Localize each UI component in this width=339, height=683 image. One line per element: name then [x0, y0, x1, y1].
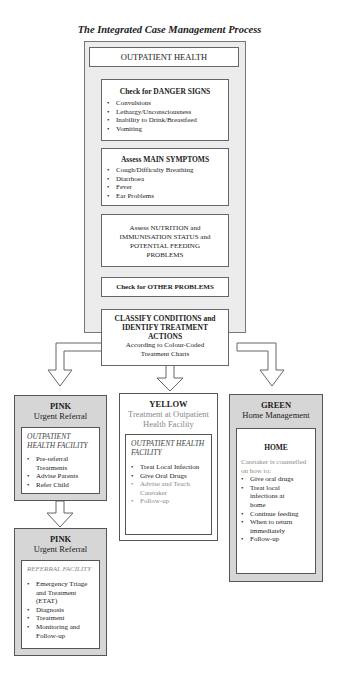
list-item: Treat Local Infection — [140, 463, 211, 472]
nutrition-box: Assess NUTRITION and IMMUNISATION STATUS… — [101, 214, 229, 267]
yellow-treatment-box: YELLOW Treatment at Outpatient Health Fa… — [119, 393, 218, 541]
list-item: Treat local infections at home — [250, 484, 315, 510]
list-item: Monitoring and Follow-up — [36, 623, 99, 640]
list-item: Give Oral Drugs — [140, 472, 211, 481]
pink-referral-category-name: PINK — [15, 534, 106, 544]
danger-signs-box: Check for DANGER SIGNS Convulsions Letha… — [101, 79, 229, 141]
classify-subtext: According to Colour-Coded Treatment Char… — [120, 341, 210, 358]
green-actions-list: Give oral drugs Treat local infections a… — [237, 475, 315, 544]
list-item: Inability to Drink/Breastfeed — [116, 116, 228, 125]
list-item: Follow-up — [140, 497, 211, 506]
list-item: Convulsions — [116, 99, 228, 108]
list-item: Continue feeding — [250, 510, 315, 519]
main-symptoms-heading: Assess MAIN SYMPTOMS — [102, 155, 228, 164]
pink-facility-name: OUTPATIENT HEALTH FACILITY — [27, 432, 99, 450]
yellow-facility-name: OUTPATIENT HEALTH FACILITY — [131, 439, 211, 457]
yellow-actions-list: Treat Local Infection Give Oral Drugs Ad… — [126, 463, 211, 506]
yellow-category-name: YELLOW — [120, 399, 217, 409]
list-item: Refer Child — [36, 481, 99, 490]
list-item: Diarrhoea — [116, 175, 228, 184]
list-item: Follow-up — [250, 535, 315, 544]
green-category-label: Home Management — [230, 410, 322, 420]
list-item: Vomiting — [116, 125, 228, 134]
classify-heading: CLASSIFY CONDITIONS and IDENTIFY TREATME… — [110, 314, 220, 341]
nutrition-text: Assess NUTRITION and IMMUNISATION STATUS… — [112, 224, 218, 260]
main-symptoms-list: Cough/Difficulty Breathing Diarrhoea Fev… — [102, 166, 228, 200]
list-item: Diagnosis — [36, 606, 99, 615]
list-item: Give oral drugs — [250, 475, 315, 484]
referral-facility-name: REFERRAL FACILITY — [27, 565, 99, 573]
pink-category-label: Urgent Referral — [15, 411, 106, 421]
list-item: Cough/Difficulty Breathing — [116, 166, 228, 175]
list-item: When to return immediately — [250, 518, 315, 535]
list-item: Advise Parents — [36, 472, 99, 481]
pink-urgent-referral-box: PINK Urgent Referral OUTPATIENT HEALTH F… — [14, 395, 107, 501]
pink-category-name: PINK — [15, 401, 106, 411]
other-problems-box: Check for OTHER PROBLEMS — [101, 277, 229, 297]
pink-facility-box: OUTPATIENT HEALTH FACILITY Pre-referral … — [21, 427, 100, 494]
main-symptoms-box: Assess MAIN SYMPTOMS Cough/Difficulty Br… — [101, 148, 229, 206]
list-item: Emergency Triage and Treatment (ETAT) — [36, 580, 99, 606]
green-facility-name: HOME — [237, 443, 315, 452]
classify-box: CLASSIFY CONDITIONS and IDENTIFY TREATME… — [101, 309, 229, 366]
other-problems-text: Check for OTHER PROBLEMS — [102, 283, 228, 291]
danger-signs-list: Convulsions Lethargy/Unconsciousness Ina… — [102, 99, 228, 133]
list-item: Treatment — [36, 614, 99, 623]
pink-referral-facility-box: PINK Urgent Referral REFERRAL FACILITY E… — [14, 528, 107, 656]
referral-actions-list: Emergency Triage and Treatment (ETAT) Di… — [22, 580, 99, 640]
green-home-management-box: GREEN Home Management HOME Caretaker is … — [229, 394, 323, 582]
green-facility-box: HOME Caretaker is counselled on how to: … — [236, 428, 316, 574]
list-item: Advise and Teach Caretaker — [140, 480, 211, 497]
pink-actions-list: Pre-referral Treatments Advise Parents R… — [22, 455, 99, 489]
danger-signs-heading: Check for DANGER SIGNS — [102, 87, 228, 96]
list-item: Ear Problems — [116, 192, 228, 201]
green-category-name: GREEN — [230, 400, 322, 410]
referral-facility-inner-box: REFERRAL FACILITY Emergency Triage and T… — [21, 560, 100, 649]
yellow-facility-box: OUTPATIENT HEALTH FACILITY Treat Local I… — [125, 434, 212, 535]
outpatient-header: OUTPATIENT HEALTH — [90, 52, 238, 62]
list-item: Pre-referral Treatments — [36, 455, 99, 472]
pink-referral-category-label: Urgent Referral — [15, 544, 106, 554]
outpatient-header-box: OUTPATIENT HEALTH — [89, 47, 239, 67]
list-item: Lethargy/Unconsciousness — [116, 108, 228, 117]
green-intro-text: Caretaker is counselled on how to: — [241, 458, 311, 475]
yellow-category-label: Treatment at Outpatient Health Facility — [124, 409, 213, 429]
list-item: Fever — [116, 183, 228, 192]
